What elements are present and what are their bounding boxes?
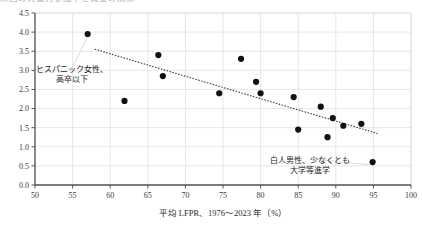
annotation-labels: ヒスパニック女性、高卒以下白人男性、少なくとも大学等進学 [36, 64, 350, 175]
data-point [258, 90, 264, 96]
data-point [216, 90, 222, 96]
x-tick-label: 55 [69, 191, 77, 200]
y-tick-label: 3.5 [19, 47, 29, 56]
trendline [95, 49, 377, 133]
data-point [295, 126, 301, 132]
x-tick-label: 65 [144, 191, 152, 200]
y-tick-label: 4.0 [19, 28, 29, 37]
data-point [358, 121, 364, 127]
x-tick-label: 90 [332, 191, 340, 200]
x-axis-ticks: 50556065707580859095100 [31, 185, 417, 200]
annotation-line: 高卒以下 [56, 74, 88, 84]
data-point [330, 115, 336, 121]
y-tick-label: 2.0 [19, 104, 29, 113]
y-tick-label: 1.0 [19, 143, 29, 152]
x-tick-label: 70 [181, 191, 189, 200]
x-tick-label: 100 [405, 191, 417, 200]
x-tick-label: 80 [257, 191, 265, 200]
x-tick-label: 50 [31, 191, 39, 200]
x-tick-label: 95 [369, 191, 377, 200]
data-point [291, 94, 297, 100]
x-tick-label: 75 [219, 191, 227, 200]
data-point [238, 56, 244, 62]
trendline-dotted [95, 49, 377, 133]
chart-figure: 米国の労働力参加率と賃金の関係 50556065707580859095100 … [0, 0, 423, 225]
data-point [324, 134, 330, 140]
annotation-line: 白人男性、少なくとも [270, 155, 350, 165]
data-point [318, 104, 324, 110]
annotation-line: ヒスパニック女性、 [36, 64, 108, 74]
plot-svg: 50556065707580859095100 0.00.51.01.52.02… [0, 0, 423, 225]
x-axis-title: 平均 LFPR、1976〜2023 年（%） [159, 208, 288, 218]
y-tick-label: 3.0 [19, 66, 29, 75]
data-point [370, 159, 376, 165]
y-tick-label: 2.5 [19, 85, 29, 94]
y-tick-label: 4.5 [19, 9, 29, 18]
x-tick-label: 60 [106, 191, 114, 200]
annotation-line: 大学等進学 [290, 165, 330, 175]
gridlines [35, 13, 411, 185]
y-tick-label: 0.0 [19, 181, 29, 190]
data-point [160, 73, 166, 79]
annotation-leader-lines [72, 37, 373, 165]
x-axis-title-text: 平均 LFPR、1976〜2023 年（%） [159, 208, 288, 218]
y-tick-label: 0.5 [19, 162, 29, 171]
y-tick-label: 1.5 [19, 124, 29, 133]
annotation-hispanic-women: ヒスパニック女性、高卒以下 [36, 64, 108, 84]
y-axis-ticks: 0.00.51.01.52.02.53.03.54.04.5 [19, 9, 35, 190]
data-point [155, 52, 161, 58]
data-point [340, 123, 346, 129]
scatter-plot: 50556065707580859095100 0.00.51.01.52.02… [0, 0, 423, 225]
x-tick-label: 85 [294, 191, 302, 200]
data-point [253, 79, 259, 85]
annotation-white-men: 白人男性、少なくとも大学等進学 [270, 155, 350, 175]
data-point [121, 98, 127, 104]
data-point [85, 31, 91, 37]
annotation-leader [72, 37, 88, 68]
